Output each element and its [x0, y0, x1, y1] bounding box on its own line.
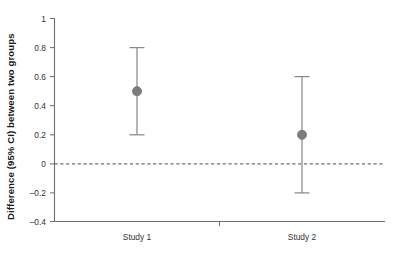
data-point-study-2	[297, 130, 306, 139]
x-tick-label-study-2: Study 2	[288, 232, 317, 242]
y-tick-label-neg-0-2: –0.2	[30, 188, 47, 198]
y-tick-label-0-8: 0.8	[34, 43, 46, 53]
errorbar-study-1	[130, 48, 145, 135]
data-point-study-1	[132, 87, 141, 96]
y-tick-label-neg-0-4: –0.4	[30, 217, 47, 227]
y-tick-label-0-6: 0.6	[34, 72, 46, 82]
errorbar-study-2	[295, 77, 310, 193]
y-tick-label-0: 0	[41, 159, 46, 169]
chart-figure: Difference (95% CI) between two groups 1…	[0, 0, 402, 255]
y-tick-marks	[50, 19, 55, 222]
errorbar-chart-svg: Difference (95% CI) between two groups 1…	[0, 0, 402, 255]
y-tick-label-1: 1	[41, 14, 46, 24]
y-axis-title: Difference (95% CI) between two groups	[5, 33, 16, 220]
x-tick-label-study-1: Study 1	[123, 232, 152, 242]
y-tick-label-0-4: 0.4	[34, 101, 46, 111]
y-tick-label-0-2: 0.2	[34, 130, 46, 140]
